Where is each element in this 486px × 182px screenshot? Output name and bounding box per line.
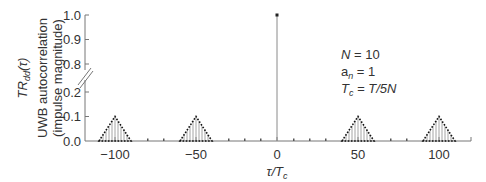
x-axis-title: τ/Tc	[267, 164, 288, 181]
parameter-annotations: N = 10 an = 1 Tc = T/5N	[341, 47, 397, 98]
x-tick-minus-100: −100	[100, 147, 129, 162]
annotation-an: an = 1	[341, 64, 375, 81]
x-tick-50: 50	[351, 147, 365, 162]
autocorrelation-chart: 1.0 0.9 0.8 0.2 0.1 0.0 −100 −50 0 50 10…	[0, 0, 486, 182]
y-axis-title: TRdd(τ) UWB autocorrelation (impulse mag…	[15, 18, 65, 138]
x-axis	[85, 137, 471, 141]
x-tick-0: 0	[273, 147, 280, 162]
sidelobe-triangle-minus-100	[99, 117, 131, 142]
x-tick-100: 100	[428, 147, 450, 162]
sidelobe-triangle-50	[342, 117, 374, 142]
y-tick-0.9: 0.9	[63, 32, 81, 47]
y-axis-title-line2: UWB autocorrelation	[35, 18, 50, 138]
y-tick-0.2: 0.2	[63, 85, 81, 100]
sidelobe-triangle-100	[423, 117, 455, 142]
y-tick-0.1: 0.1	[63, 109, 81, 124]
x-tick-minus-50: −50	[185, 147, 207, 162]
main-peak	[276, 14, 279, 142]
annotation-Tc: Tc = T/5N	[341, 81, 397, 98]
y-tick-0.8: 0.8	[63, 57, 81, 72]
y-axis	[85, 15, 89, 141]
annotation-N: N = 10	[341, 47, 380, 62]
y-tick-1.0: 1.0	[63, 8, 81, 23]
sidelobe-triangle-minus-50	[180, 117, 212, 142]
y-axis-title-line3: (impulse magnitude)	[50, 19, 65, 137]
y-tick-0.0: 0.0	[63, 134, 81, 149]
y-axis-title-line1: TRdd(τ)	[15, 58, 32, 99]
